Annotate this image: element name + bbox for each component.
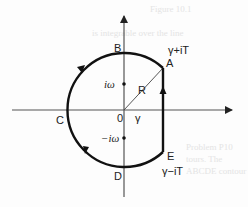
label-E: E	[167, 150, 174, 162]
label-C: C	[56, 114, 64, 126]
ghost-right-1: Problem P10	[186, 142, 233, 152]
label-A: A	[166, 57, 174, 69]
label-R: R	[138, 84, 146, 96]
pole-upper-dot	[122, 82, 126, 86]
arrow-vertical-up-icon	[160, 86, 167, 94]
ghost-figure-caption: Figure 10.1	[150, 4, 192, 14]
ghost-right-3: ABCDE contour	[186, 166, 246, 176]
label-D: D	[114, 170, 122, 182]
label-i-omega: iω	[104, 78, 115, 90]
pole-lower-dot	[122, 136, 126, 140]
label-minus-i-omega: −iω	[101, 132, 119, 144]
label-gamma: γ	[135, 112, 141, 124]
ghost-right-2: tours. The	[186, 154, 222, 164]
contour-diagram: Figure 10.1 is integrable over the line …	[0, 0, 248, 207]
label-B: B	[114, 42, 121, 54]
label-gamma-plus-iT: γ+iT	[168, 44, 189, 56]
label-origin: 0	[117, 112, 123, 124]
ghost-line: is integrable over the line	[92, 28, 183, 38]
label-gamma-minus-iT: γ−iT	[162, 165, 183, 177]
